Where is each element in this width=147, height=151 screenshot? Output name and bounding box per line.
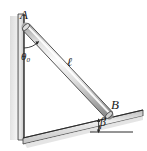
label-angle-beta: β (100, 116, 106, 128)
physics-diagram-rod-on-incline: A B ℓ θ0 β (0, 0, 147, 151)
theta-subscript: 0 (26, 56, 30, 64)
diagram-canvas (0, 0, 147, 151)
label-point-a: A (20, 8, 28, 21)
label-point-b: B (111, 98, 119, 111)
vertical-wall (18, 14, 24, 140)
label-angle-theta: θ0 (21, 51, 30, 64)
label-rod-length: ℓ (67, 56, 72, 68)
